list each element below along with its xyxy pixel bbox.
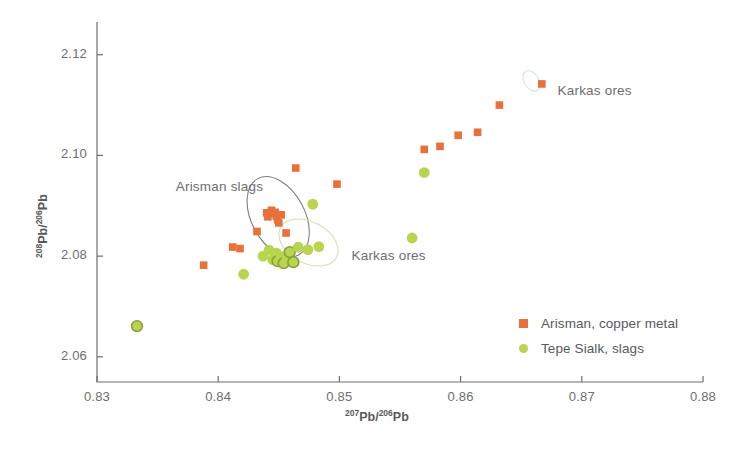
data-point-arisman (436, 143, 444, 151)
data-point-tepe-sialk (293, 242, 304, 253)
x-tick-label: 0.88 (685, 389, 721, 404)
y-axis-title-end: Pb (36, 194, 50, 210)
data-point-arisman (496, 101, 504, 109)
annotation-label: Karkas ores (352, 248, 426, 263)
data-point-arisman (292, 164, 300, 172)
legend-item-arisman: Arisman, copper metal (519, 312, 678, 334)
legend-label-tepe-sialk: Tepe Sialk, slags (541, 341, 644, 356)
x-axis-title: 207Pb/206Pb (345, 408, 409, 424)
data-point-arisman (333, 180, 341, 188)
data-point-tepe-sialk (307, 199, 318, 210)
data-point-arisman (229, 243, 237, 251)
y-axis-title-sup-206: 206 (34, 210, 44, 224)
data-point-tepe-sialk (288, 257, 299, 268)
plot-canvas (0, 0, 739, 450)
legend-item-tepe-sialk: Tepe Sialk, slags (519, 337, 644, 359)
legend-swatch-square-icon (519, 319, 528, 328)
legend-label-arisman: Arisman, copper metal (541, 316, 678, 331)
data-point-tepe-sialk (132, 321, 143, 332)
data-point-arisman (200, 261, 208, 269)
y-tick-label: 2.06 (39, 348, 87, 363)
data-point-arisman (282, 229, 290, 237)
legend: Arisman, copper metal Tepe Sialk, slags (507, 306, 697, 368)
data-point-tepe-sialk (302, 244, 313, 255)
x-tick-label: 0.87 (564, 389, 600, 404)
x-tick-label: 0.83 (79, 389, 115, 404)
y-tick-label: 2.08 (39, 247, 87, 262)
data-point-arisman (538, 80, 546, 88)
legend-swatch-circle-icon (519, 344, 528, 353)
data-point-arisman (454, 131, 462, 139)
data-point-arisman (474, 128, 482, 136)
x-axis-title-mid: Pb/ (359, 410, 378, 424)
annotation-label: Karkas ores (558, 83, 632, 98)
x-tick-label: 0.85 (321, 389, 357, 404)
annotation-label: Arisman slags (176, 179, 263, 194)
data-point-arisman (253, 228, 261, 236)
cluster-ellipses (234, 68, 543, 276)
y-tick-label: 2.10 (39, 146, 87, 161)
y-axis-title-mid: Pb/ (36, 224, 50, 243)
scatter-plot-figure: 208Pb/206Pb 207Pb/206Pb 0.830.840.850.86… (0, 0, 739, 450)
data-point-tepe-sialk (238, 269, 249, 280)
data-point-tepe-sialk (313, 241, 324, 252)
data-point-arisman (420, 146, 428, 154)
data-point-arisman (277, 211, 285, 219)
x-axis-title-end: Pb (393, 410, 409, 424)
x-axis-title-sup-207: 207 (345, 408, 359, 418)
x-axis-title-sup-206: 206 (379, 408, 393, 418)
data-point-tepe-sialk (419, 167, 430, 178)
data-point-tepe-sialk (407, 233, 418, 244)
data-points (132, 80, 546, 331)
y-tick-label: 2.12 (39, 46, 87, 61)
x-tick-label: 0.84 (200, 389, 236, 404)
x-tick-label: 0.86 (443, 389, 479, 404)
data-point-arisman (275, 219, 283, 227)
data-point-arisman (236, 245, 244, 253)
